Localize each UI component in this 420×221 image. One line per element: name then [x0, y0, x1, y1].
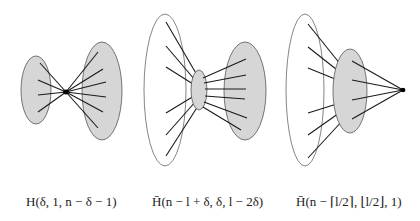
graph-1	[21, 42, 122, 140]
center-vertex	[63, 90, 69, 95]
apex-vertex	[401, 88, 406, 92]
graph-3-caption: H̄(n − ⌈l/2⌉, ⌊l/2⌋, 1)	[296, 194, 402, 210]
left-clique-ellipse	[21, 56, 51, 124]
right-clique-ellipse	[224, 42, 266, 140]
center-clique-ellipse	[333, 49, 367, 133]
graph-2-caption: H̄(n − l + δ, δ, l − 2δ)	[152, 194, 263, 210]
graph-2	[144, 14, 266, 166]
right-clique-ellipse	[82, 42, 122, 140]
graph-3	[286, 14, 405, 166]
graph-figure	[0, 0, 420, 221]
center-clique-ellipse	[191, 70, 207, 110]
left-set-ellipse	[144, 14, 186, 166]
graph-1-caption: H(δ, 1, n − δ − 1)	[26, 194, 116, 210]
